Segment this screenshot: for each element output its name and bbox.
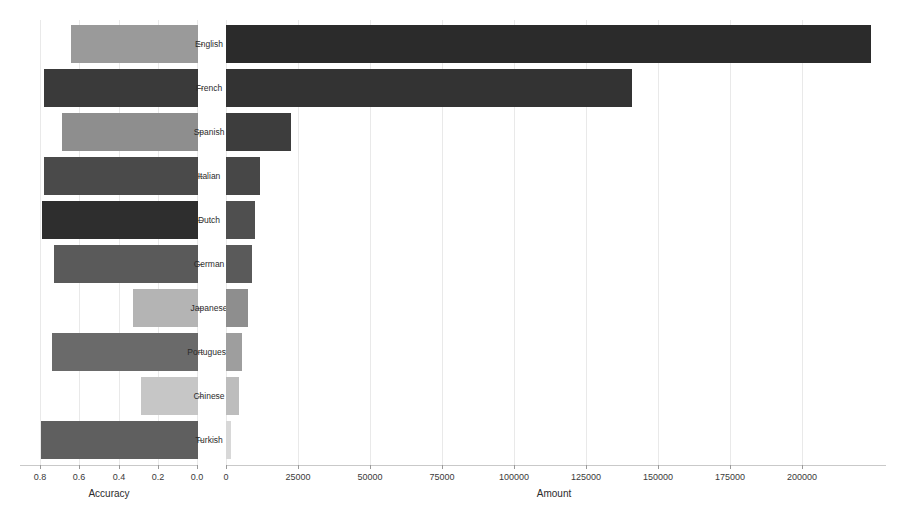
amount-tick-75000 [442, 465, 443, 469]
amount-panel: 0 25000 50000 75000 100000 125000 150000… [226, 20, 886, 465]
accuracy-tick-0-2 [158, 465, 159, 469]
category-label-dutch: Dutch [198, 215, 220, 225]
amount-tick-100000 [514, 465, 515, 469]
accuracy-ticklabel-0-2: 0.2 [138, 472, 178, 483]
amount-tick-175000 [730, 465, 731, 469]
amount-tick-125000 [586, 465, 587, 469]
accuracy-panel: 0.8 0.6 0.4 0.2 0.0 Accuracy [20, 20, 198, 465]
bar-amount-dutch [226, 201, 255, 239]
amount-axis-title: Amount [484, 488, 624, 499]
gridline-accuracy-0-8 [40, 20, 41, 465]
bar-amount-portuguese [226, 333, 242, 371]
bar-amount-italian [226, 157, 260, 195]
category-label-english: English [195, 39, 223, 49]
bar-accuracy-spanish [62, 113, 198, 151]
amount-ticklabel-175000: 175000 [705, 472, 755, 483]
bar-accuracy-french [44, 69, 198, 107]
amount-ticklabel-75000: 75000 [417, 472, 467, 483]
amount-tick-0 [226, 465, 227, 469]
accuracy-ticklabel-0-6: 0.6 [59, 472, 99, 483]
category-label-french: French [196, 83, 222, 93]
category-label-chinese: Chinese [193, 391, 224, 401]
bar-amount-spanish [226, 113, 291, 151]
bar-amount-japanese [226, 289, 248, 327]
bar-amount-french [226, 69, 632, 107]
amount-ticklabel-50000: 50000 [345, 472, 395, 483]
bar-accuracy-chinese [141, 377, 198, 415]
accuracy-tick-0-0 [197, 465, 198, 469]
amount-tick-200000 [802, 465, 803, 469]
category-label-italian: Italian [198, 171, 221, 181]
accuracy-ticklabel-0-8: 0.8 [20, 472, 60, 483]
bar-accuracy-dutch [42, 201, 198, 239]
accuracy-axis-line [20, 465, 198, 466]
bar-accuracy-english [71, 25, 198, 63]
gridline-amount-150000 [658, 20, 659, 465]
amount-tick-50000 [370, 465, 371, 469]
bar-accuracy-german [54, 245, 198, 283]
gridline-amount-175000 [730, 20, 731, 465]
amount-ticklabel-125000: 125000 [561, 472, 611, 483]
category-label-japanese: Japanese [191, 303, 228, 313]
gridline-amount-200000 [802, 20, 803, 465]
bar-amount-chinese [226, 377, 239, 415]
amount-ticklabel-25000: 25000 [273, 472, 323, 483]
chart-figure: 0.8 0.6 0.4 0.2 0.0 Accuracy English Fre… [0, 0, 897, 520]
bar-accuracy-portuguese [52, 333, 198, 371]
amount-ticklabel-200000: 200000 [777, 472, 827, 483]
amount-tick-150000 [658, 465, 659, 469]
accuracy-tick-0-4 [119, 465, 120, 469]
accuracy-tick-0-8 [40, 465, 41, 469]
bar-amount-turkish [226, 421, 231, 459]
category-label-german: German [194, 259, 225, 269]
bar-accuracy-italian [44, 157, 198, 195]
amount-axis-line [226, 465, 886, 466]
category-label-spanish: Spanish [194, 127, 225, 137]
accuracy-ticklabel-0-4: 0.4 [99, 472, 139, 483]
category-label-turkish: Turkish [195, 435, 223, 445]
category-label-portuguese: Portuguese [187, 347, 230, 357]
amount-ticklabel-0: 0 [201, 472, 251, 483]
bar-amount-german [226, 245, 252, 283]
amount-ticklabel-150000: 150000 [633, 472, 683, 483]
accuracy-tick-0-6 [79, 465, 80, 469]
accuracy-axis-title: Accuracy [39, 488, 179, 499]
amount-tick-25000 [298, 465, 299, 469]
bar-amount-english [226, 25, 871, 63]
amount-ticklabel-100000: 100000 [489, 472, 539, 483]
bar-accuracy-turkish [41, 421, 198, 459]
bar-accuracy-japanese [133, 289, 198, 327]
